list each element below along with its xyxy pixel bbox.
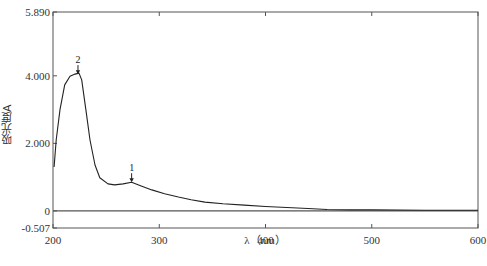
x-tick-label: 500 (364, 234, 381, 246)
series-line (54, 73, 478, 210)
plot-border (53, 12, 478, 228)
peak-annotations: 21 (75, 54, 134, 182)
x-axis-label: λ（nm） (244, 234, 285, 246)
y-axis-label: 吸光度A (0, 95, 20, 155)
x-tick-label: 200 (45, 234, 62, 246)
y-tick-label: 2.000 (25, 137, 50, 149)
y-axis-ticks: -0.50702.0004.0005.890 (22, 6, 57, 234)
plot-frame (53, 12, 478, 228)
y-tick-label: 0 (45, 205, 51, 217)
y-tick-label: 5.890 (25, 6, 50, 18)
peak-label: 2 (75, 54, 80, 65)
x-tick-label: 600 (470, 234, 487, 246)
x-tick-label: 300 (151, 234, 168, 246)
absorbance-chart: -0.50702.0004.0005.890 200300400500600 2… (0, 0, 487, 266)
y-tick-label: 4.000 (25, 70, 50, 82)
peak-label: 1 (129, 162, 134, 173)
y-tick-label: -0.507 (22, 222, 51, 234)
absorbance-curve (54, 73, 478, 210)
arrowhead-icon (129, 178, 133, 182)
